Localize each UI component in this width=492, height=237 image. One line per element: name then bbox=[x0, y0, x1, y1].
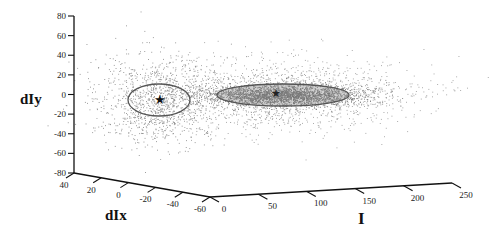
dIy-tick-label: -20 bbox=[54, 109, 66, 119]
dIy-tick-label: 20 bbox=[57, 70, 67, 80]
I-axis: 050100150200250 I bbox=[210, 183, 473, 228]
dIx-tick-label: 0 bbox=[116, 190, 121, 200]
scatter-3d-chart: ★ ★ 806040200-20-40-60-80 dIy 40200-20-4… bbox=[0, 0, 492, 237]
dIx-tick-label: -60 bbox=[194, 204, 206, 214]
cluster-2-ellipse bbox=[217, 84, 349, 106]
dIx-axis: 40200-20-40-60 dIx bbox=[60, 173, 211, 223]
cluster-2-center-star: ★ bbox=[271, 87, 281, 99]
dIy-tick-label: 60 bbox=[57, 31, 67, 41]
cluster-1-center-star: ★ bbox=[154, 92, 166, 107]
dIy-axis-label: dIy bbox=[20, 91, 42, 107]
dIx-tick-label: 40 bbox=[60, 180, 70, 190]
I-tick-label: 250 bbox=[459, 190, 473, 200]
I-tick-label: 50 bbox=[268, 201, 278, 211]
dIy-tick-label: -60 bbox=[54, 148, 66, 158]
dIx-axis-label: dIx bbox=[105, 207, 127, 223]
dIx-tick-label: -20 bbox=[140, 194, 152, 204]
dIy-tick-label: -40 bbox=[54, 129, 66, 139]
I-tick-label: 200 bbox=[411, 193, 425, 203]
dIx-tick-label: -40 bbox=[167, 199, 179, 209]
dIy-tick-label: 40 bbox=[57, 50, 67, 60]
dIy-tick-label: 80 bbox=[57, 11, 67, 21]
I-tick-label: 150 bbox=[362, 196, 376, 206]
I-tick-label: 100 bbox=[314, 198, 328, 208]
dIy-axis: 806040200-20-40-60-80 dIy bbox=[20, 11, 74, 178]
I-axis-label: I bbox=[358, 209, 365, 228]
I-tick-label: 0 bbox=[222, 204, 227, 214]
dIy-tick-label: 0 bbox=[62, 90, 67, 100]
dIy-tick-label: -80 bbox=[54, 168, 66, 178]
dIx-tick-label: 20 bbox=[87, 185, 97, 195]
